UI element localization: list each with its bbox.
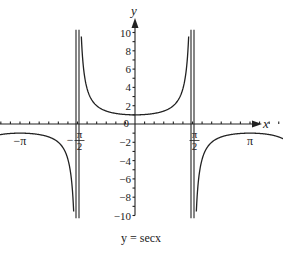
y-tick-label: 10 [120,27,132,39]
y-tick-label: 4 [126,81,132,93]
y-axis-arrow-icon [132,18,139,28]
secant-chart: −10−8−6−4−20246810 −3π2−π−π2π2π3π2 y x y… [0,0,283,257]
secant-branch [196,133,283,211]
x-tick-label-denominator: 2 [192,140,198,152]
y-tick-label: −10 [114,210,132,222]
chart-caption: y = secx [121,231,161,245]
x-tick-label: −π [14,134,27,148]
y-tick-label: 6 [126,63,132,75]
x-tick-labels: −3π2−π−π2π2π3π2 [0,128,283,152]
x-tick-label-numerator: π [77,128,83,140]
y-axis-label: y [129,3,137,18]
y-tick-label: 0 [124,117,130,129]
y-tick-label: −2 [119,136,131,148]
axes [0,18,262,216]
x-tick-label-numerator: π [192,128,198,140]
x-axis-label: x [262,116,269,131]
x-tick-label: π [247,134,253,148]
y-tick-label: −8 [119,191,131,203]
secant-branch [0,133,74,211]
y-tick-label: 8 [126,45,132,57]
y-tick-label: 2 [126,100,132,112]
y-tick-label: −6 [119,173,131,185]
x-tick-label-denominator: 2 [77,140,83,152]
x-axis-arrow-icon [252,121,262,128]
y-tick-label: −4 [119,155,131,167]
x-tick-label-sign: − [67,133,74,147]
